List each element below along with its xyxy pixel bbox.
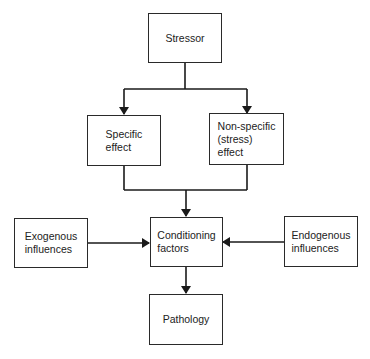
nonspecific-effect-box: Non-specific (stress) effect: [209, 113, 284, 165]
pathology-box: Pathology: [149, 294, 223, 345]
nonspecific-effect-label: Non-specific (stress) effect: [218, 120, 276, 159]
exogenous-influences-label: Exogenous influences: [25, 230, 78, 256]
exogenous-influences-box: Exogenous influences: [14, 218, 88, 268]
pathology-label: Pathology: [163, 313, 210, 326]
flowchart-canvas: Stressor Specific effect Non-specific (s…: [0, 0, 370, 359]
endogenous-influences-box: Endogenous influences: [284, 216, 358, 267]
specific-effect-label: Specific effect: [106, 128, 143, 154]
conditioning-factors-label: Conditioning factors: [157, 229, 215, 255]
endogenous-influences-label: Endogenous influences: [292, 229, 351, 255]
conditioning-factors-box: Conditioning factors: [150, 217, 223, 267]
specific-effect-box: Specific effect: [87, 115, 161, 166]
stressor-box: Stressor: [148, 13, 222, 63]
stressor-label: Stressor: [165, 32, 204, 45]
